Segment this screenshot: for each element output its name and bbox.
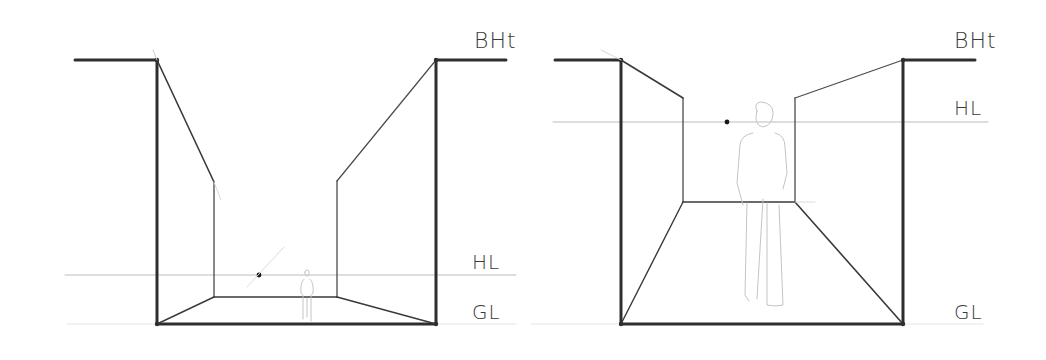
person-head-icon [756,102,773,127]
left-bht-label: BHt [474,28,517,53]
corner-point [434,58,438,62]
right-perspective-diagram [531,50,988,326]
floor-edge-left [157,297,214,324]
left-perspective-diagram [65,50,516,326]
floor-edge-left [621,202,683,324]
roof-edge-left [621,60,683,98]
corner-point [155,322,159,326]
construction-line [214,182,221,200]
corner-point [901,58,905,62]
roof-edge-right [795,60,903,98]
person-legs-icon [745,199,783,306]
roof-edge-left [157,60,214,182]
person-body-icon [301,279,313,321]
floor-edge-right [337,297,436,324]
perspective-diagram-canvas [0,0,1046,360]
right-gl-label: GL [954,300,983,324]
vanishing-point [725,120,730,125]
corner-point [901,322,905,326]
right-hl-label: HL [954,96,982,120]
corner-point [434,322,438,326]
floor-edge-right [795,202,903,324]
roof-edge-right [337,60,436,181]
left-gl-label: GL [472,300,501,324]
left-hl-label: HL [472,250,500,274]
person-torso-icon [737,133,787,205]
right-bht-label: BHt [954,28,997,53]
construction-line [247,247,284,287]
corner-point [619,322,623,326]
